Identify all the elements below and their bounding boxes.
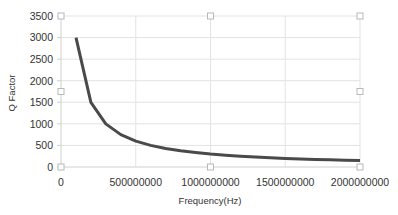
y-tick-label: 2500 [30,53,54,65]
resize-handle[interactable] [58,164,64,170]
x-axis-tick-labels: 0500000000100000000015000000002000000000 [58,176,389,188]
y-tick-label: 1000 [30,118,54,130]
vertical-gridlines [136,16,360,167]
y-tick-label: 3000 [30,31,54,43]
y-tick-label: 500 [35,139,53,151]
x-tick-label: 2000000000 [331,176,390,188]
y-tick-label: 0 [47,161,53,173]
y-tick-label: 3500 [30,10,54,22]
axes [57,16,360,167]
y-axis-tick-labels: 0500100015002000250030003500 [30,10,54,173]
y-tick-label: 1500 [30,96,54,108]
resize-handle[interactable] [357,13,363,19]
resize-handle[interactable] [357,164,363,170]
y-axis-title: Q Factor [6,75,17,112]
resize-handle[interactable] [208,13,214,19]
resize-handle[interactable] [58,89,64,95]
resize-handle[interactable] [58,13,64,19]
x-tick-label: 1000000000 [181,176,240,188]
chart-area: 0500100015002000250030003500 05000000001… [0,0,398,215]
x-tick-label: 500000000 [109,176,162,188]
x-tick-label: 0 [58,176,64,188]
x-tick-label: 1500000000 [256,176,315,188]
resize-handle[interactable] [357,89,363,95]
data-series [76,38,360,161]
q-factor-line [76,38,360,161]
x-axis-title: Frequency(Hz) [179,195,242,206]
y-tick-label: 2000 [30,75,54,87]
resize-handle[interactable] [208,164,214,170]
